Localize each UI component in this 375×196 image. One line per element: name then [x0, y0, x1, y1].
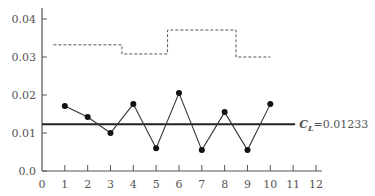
x-tick-label: 12 [309, 178, 323, 191]
data-point [107, 130, 113, 136]
x-tick-label: 5 [153, 178, 160, 191]
y-tick-label: 0.01 [12, 127, 37, 140]
y-tick-label: 0.04 [12, 13, 37, 26]
x-tick-label: 0 [39, 178, 46, 191]
x-tick-label: 2 [84, 178, 91, 191]
data-point [130, 101, 136, 107]
control-chart: 0.00.010.020.030.040123456789101112 CL=0… [0, 0, 375, 196]
y-tick-label: 0.02 [12, 89, 37, 102]
x-tick-label: 11 [286, 178, 300, 191]
data-point [267, 101, 273, 107]
data-point [222, 109, 228, 115]
x-tick-label: 7 [198, 178, 205, 191]
x-tick-label: 4 [130, 178, 137, 191]
data-series [62, 90, 273, 153]
data-point [62, 103, 68, 109]
data-point [85, 114, 91, 120]
data-point [153, 145, 159, 151]
x-tick-label: 6 [175, 178, 182, 191]
x-tick-label: 10 [263, 178, 277, 191]
x-tick-label: 3 [107, 178, 114, 191]
upper-control-limit-line [53, 30, 270, 57]
data-point [176, 90, 182, 96]
y-tick-label: 0.0 [19, 165, 37, 178]
ucl-path [53, 30, 270, 57]
x-tick-label: 1 [61, 178, 68, 191]
center-line-label: CL=0.01233 [299, 118, 368, 133]
x-tick-label: 8 [221, 178, 228, 191]
data-point [244, 147, 250, 153]
y-tick-label: 0.03 [12, 51, 37, 64]
x-tick-label: 9 [244, 178, 251, 191]
series-line [65, 93, 270, 150]
center-line-annotation: CL=0.01233 [299, 118, 368, 133]
data-point [199, 147, 205, 153]
